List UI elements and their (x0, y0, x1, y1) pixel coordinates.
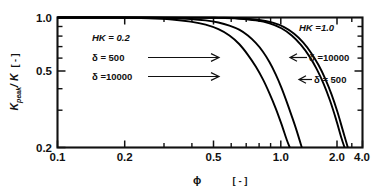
x-tick-label-9: 1.0 (273, 151, 289, 163)
y-axis-ticks-right (355, 27, 363, 111)
y-axis-title-den: / K (8, 72, 20, 88)
x-tick-label-4: 0.5 (206, 151, 223, 163)
y-axis-unit: [ - ] (10, 54, 20, 68)
annotation-delta-left-500: δ = 500 (92, 52, 124, 63)
chart-figure: 0.1 0.2 0.5 1.0 2.0 4.0 1.0 0.5 0.2 ϕ [ … (0, 0, 386, 191)
annotation-hk-right: HK =1.0 (299, 22, 335, 33)
svg-text:Kpeak/ K[ - ]: Kpeak/ K[ - ] (8, 54, 23, 111)
y-tick-label-1: 1.0 (36, 12, 52, 24)
annotation-delta-right-500: δ = 500 (314, 74, 346, 85)
y-axis-ticks-left (58, 18, 66, 148)
y-tick-label-02: 0.2 (36, 142, 52, 154)
x-axis-ticks-bottom (58, 141, 363, 148)
annotation-delta-left-10000: δ =10000 (92, 71, 132, 82)
annotation-hk-left: HK = 0.2 (92, 32, 130, 43)
y-tick-labels: 1.0 0.5 0.2 (36, 12, 53, 154)
y-axis-title-sub: peak (15, 86, 23, 104)
x-tick-label-10: 2.0 (329, 151, 345, 163)
y-axis-title-group: Kpeak/ K[ - ] (8, 54, 23, 111)
y-tick-label-05: 0.5 (36, 65, 53, 77)
x-axis-unit: [ - ] (233, 175, 248, 186)
x-axis-title: ϕ (193, 174, 201, 186)
leader-lines-left (148, 54, 219, 81)
x-tick-label-1: 0.2 (117, 151, 133, 163)
chart-svg: 0.1 0.2 0.5 1.0 2.0 4.0 1.0 0.5 0.2 ϕ [ … (0, 0, 386, 191)
x-tick-label-12: 4.0 (354, 151, 370, 163)
x-tick-labels: 0.1 0.2 0.5 1.0 2.0 4.0 (50, 151, 371, 163)
annotation-delta-right-10000: δ =10000 (309, 52, 349, 63)
